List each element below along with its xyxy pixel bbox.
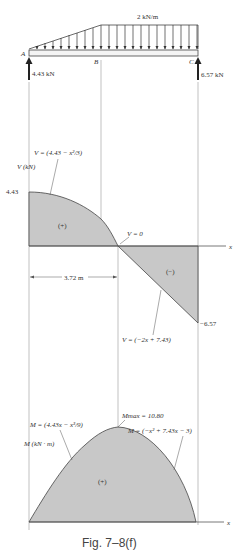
moment-diagram [29,427,224,522]
shear-diagram [29,192,226,323]
point-c-label: C [189,58,194,66]
point-a-label: A [20,50,26,58]
v-negative-region: (−) [166,268,175,276]
v-positive-region: (+) [58,222,67,230]
v-eq-segment2: V = (−2x + 7.43) [122,336,172,344]
point-b-label: B [94,58,99,66]
m-eq-segment2: M = (−x² + 7.43x − 3) [127,427,193,435]
v-max-label: 4.43 [6,188,19,196]
figure-caption: Fig. 7–8(f) [82,536,137,550]
m-positive-region: (+) [98,478,107,486]
v-axis-label: V (kN) [17,163,36,171]
reaction-a-label: 4.43 kN [32,70,55,78]
v-min-label: −6.57 [200,320,217,328]
reaction-c-label: 6.57 kN [201,71,224,79]
distributed-load-label: 2 kN/m [137,13,159,21]
v-zero-label: V = 0 [127,230,143,238]
zero-shear-distance: 3.72 m [64,274,84,282]
beam-diagram-figure: 2 kN/m A B C 4.43 kN 6.57 kN x V (kN) 4.… [0,0,242,559]
v-axis-x-label: x [228,243,233,251]
m-max-label: Mmax = 10.80 [121,412,164,420]
m-axis-x-label: x [226,519,231,527]
v-eq-segment1: V = (4.43 − x²/3) [34,149,83,157]
m-axis-label: M (kN · m) [23,440,55,448]
beam-loading [29,25,199,56]
m-eq-segment1: M = (4.43x − x³/9) [29,421,84,429]
